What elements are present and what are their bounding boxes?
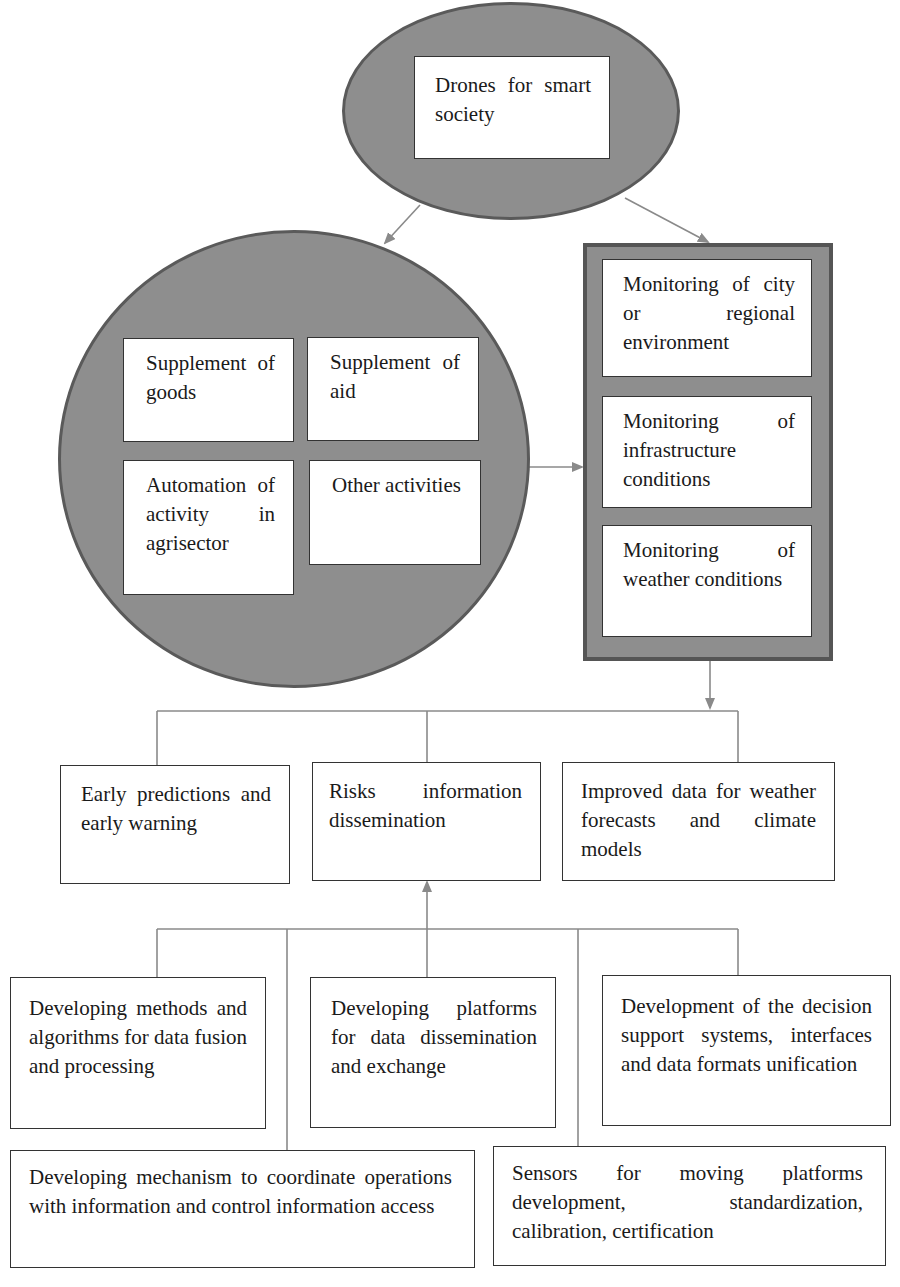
outcome-early-predictions: Early predictions and early warning <box>60 765 290 884</box>
application-supplement-goods: Supplement of goods <box>123 338 294 442</box>
monitoring-label: Monitoring of weather conditions <box>623 536 795 594</box>
outcome-improved-data: Improved data for weather forecasts and … <box>562 762 835 881</box>
applications-circle <box>58 230 530 688</box>
monitoring-city-environment: Monitoring of city or regional environme… <box>602 259 812 377</box>
root-node: Drones for smart society <box>414 56 610 159</box>
development-label: Developing mechanism to coordinate opera… <box>29 1163 452 1221</box>
application-label: Automation of activity in agrisector <box>146 471 275 558</box>
application-label: Supplement of goods <box>146 349 275 407</box>
outcome-label: Early predictions and early warning <box>81 780 271 838</box>
monitoring-weather: Monitoring of weather conditions <box>602 525 812 637</box>
development-methods-algorithms: Developing methods and algorithms for da… <box>10 977 266 1129</box>
development-platforms: Developing platforms for data disseminat… <box>310 977 556 1128</box>
development-label: Sensors for moving platforms development… <box>512 1159 863 1246</box>
outcome-risks-dissemination: Risks information dissemination <box>312 762 541 881</box>
application-label: Other activities <box>332 471 462 500</box>
outcome-label: Improved data for weather forecasts and … <box>581 777 816 864</box>
development-label: Developing methods and algorithms for da… <box>29 994 247 1081</box>
monitoring-infrastructure: Monitoring of infrastructure conditions <box>602 396 812 508</box>
application-other-activities: Other activities <box>309 460 481 565</box>
application-supplement-aid: Supplement of aid <box>307 337 479 441</box>
application-label: Supplement of aid <box>330 348 460 406</box>
development-label: Developing platforms for data disseminat… <box>331 994 537 1081</box>
development-sensors: Sensors for moving platforms development… <box>493 1146 886 1266</box>
root-label: Drones for smart society <box>435 71 591 129</box>
outcome-label: Risks information dissemination <box>329 777 522 835</box>
development-label: Development of the decision support syst… <box>621 992 872 1079</box>
monitoring-label: Monitoring of infrastructure conditions <box>623 407 795 494</box>
monitoring-label: Monitoring of city or regional environme… <box>623 270 795 357</box>
development-decision-support: Development of the decision support syst… <box>602 975 891 1126</box>
development-coordination-mechanism: Developing mechanism to coordinate opera… <box>10 1150 475 1268</box>
application-automation-agrisector: Automation of activity in agrisector <box>123 460 294 595</box>
